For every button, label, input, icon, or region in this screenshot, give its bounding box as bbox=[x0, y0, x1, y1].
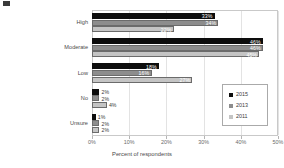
x-tick-label: 10% bbox=[124, 139, 135, 145]
bar-2013-No bbox=[92, 95, 99, 101]
legend-label-2015: 2015 bbox=[236, 92, 248, 97]
bar-2011-No bbox=[92, 102, 107, 108]
x-tick-label: 40% bbox=[235, 139, 246, 145]
chart-figure: HighModerateLowNoUnsure 33%34%22%46%46%4… bbox=[0, 0, 284, 168]
legend-item-2015: 2015 bbox=[229, 89, 267, 100]
legend-swatch-icon-2011 bbox=[229, 115, 233, 119]
bar-2011-Unsure bbox=[92, 127, 99, 133]
bar-value-label: 2% bbox=[101, 127, 109, 133]
bar-2015-Moderate bbox=[92, 38, 263, 44]
y-axis-category-label: No bbox=[0, 95, 93, 101]
y-axis-category-label: Moderate bbox=[0, 44, 93, 50]
bar-value-label: 1% bbox=[98, 114, 106, 120]
bar-value-label: 34% bbox=[205, 20, 216, 26]
bar-value-label: 46% bbox=[250, 45, 261, 51]
bar-2013-Unsure bbox=[92, 120, 99, 126]
bar-value-label: 45% bbox=[246, 52, 257, 58]
legend-label-2011: 2011 bbox=[236, 114, 248, 119]
y-axis-category-label: High bbox=[0, 19, 93, 25]
bar-value-label: 2% bbox=[101, 96, 109, 102]
bar-2011-Low bbox=[92, 77, 192, 83]
legend-swatch-icon-2013 bbox=[229, 104, 233, 108]
bar-value-label: 27% bbox=[179, 77, 190, 83]
x-tick-label: 50% bbox=[273, 139, 284, 145]
legend-item-2011: 2011 bbox=[229, 111, 267, 122]
gridline bbox=[278, 11, 279, 135]
bar-2015-High bbox=[92, 13, 215, 19]
bar-2015-No bbox=[92, 89, 99, 95]
bar-2013-Moderate bbox=[92, 45, 263, 51]
bar-value-label: 16% bbox=[139, 70, 150, 76]
bar-value-label: 33% bbox=[202, 13, 213, 19]
legend-swatch-icon-2015 bbox=[229, 93, 233, 97]
bar-value-label: 46% bbox=[250, 39, 261, 45]
bar-value-label: 18% bbox=[146, 64, 157, 70]
x-tick-label: 30% bbox=[198, 139, 209, 145]
y-axis-category-label: Unsure bbox=[0, 120, 93, 126]
bar-value-label: 22% bbox=[161, 27, 172, 33]
legend-item-2013: 2013 bbox=[229, 100, 267, 111]
x-tick-label: 0% bbox=[88, 139, 96, 145]
chart-legend: 2015 2013 2011 bbox=[222, 84, 268, 126]
bar-2013-High bbox=[92, 20, 218, 26]
x-tick-label: 20% bbox=[161, 139, 172, 145]
bar-value-label: 2% bbox=[101, 89, 109, 95]
y-axis-category-label: Low bbox=[0, 70, 93, 76]
bar-2015-Unsure bbox=[92, 114, 96, 120]
x-axis-title: Percent of respondents bbox=[0, 151, 284, 157]
figure-corner-mark bbox=[3, 1, 10, 6]
bar-value-label: 2% bbox=[101, 121, 109, 127]
legend-label-2013: 2013 bbox=[236, 103, 248, 108]
gridline bbox=[204, 11, 205, 135]
bar-2011-Moderate bbox=[92, 51, 259, 57]
bar-value-label: 4% bbox=[109, 102, 117, 108]
